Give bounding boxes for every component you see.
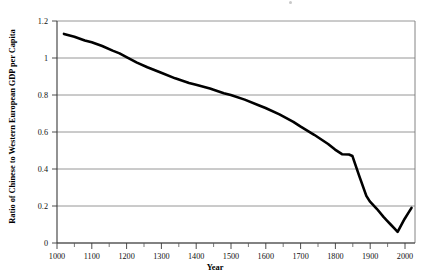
y-tick-label: 0.4 xyxy=(38,165,48,174)
x-tick-label: 2000 xyxy=(397,252,413,261)
y-tick-labels: 1.2 1 0.8 0.6 0.4 0.2 0 xyxy=(38,17,48,248)
y-tick-label: 1.2 xyxy=(38,17,48,26)
line-chart-plot: 1.2 1 0.8 0.6 0.4 0.2 0 xyxy=(0,0,430,280)
x-tick-label: 1100 xyxy=(84,252,100,261)
y-axis-ticks xyxy=(52,21,57,243)
data-series-line xyxy=(64,34,412,232)
y-tick-label: 0 xyxy=(44,239,48,248)
x-tick-labels: 1000 1100 1200 1300 1400 1500 1600 1700 … xyxy=(49,252,413,261)
y-tick-label: 0.6 xyxy=(38,128,48,137)
gridlines xyxy=(57,21,415,243)
y-tick-label: 0.8 xyxy=(38,91,48,100)
chart-figure: Ratio of Chinese to Western European GDP… xyxy=(0,0,430,280)
x-tick-label: 1200 xyxy=(118,252,134,261)
x-tick-label: 1400 xyxy=(188,252,204,261)
x-tick-label: 1000 xyxy=(49,252,65,261)
x-tick-label: 1900 xyxy=(362,252,378,261)
x-tick-label: 1500 xyxy=(223,252,239,261)
y-tick-label: 1 xyxy=(44,54,48,63)
x-tick-label: 1700 xyxy=(292,252,308,261)
x-tick-label: 1600 xyxy=(258,252,274,261)
x-tick-label: 1300 xyxy=(153,252,169,261)
y-tick-label: 0.2 xyxy=(38,202,48,211)
x-axis-label: Year xyxy=(0,263,430,272)
x-tick-label: 1800 xyxy=(327,252,343,261)
